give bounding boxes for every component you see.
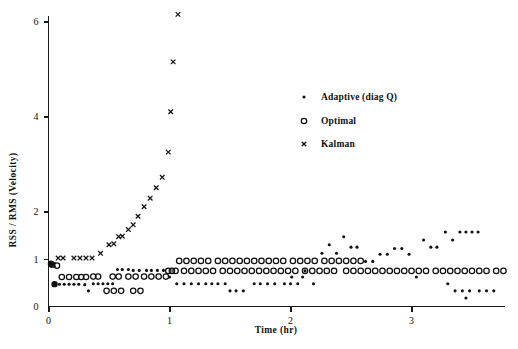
data-point-circle: [210, 268, 215, 273]
data-point-circle: [198, 258, 203, 263]
data-point-circle: [141, 274, 146, 279]
y-tick-label: 6: [34, 16, 39, 27]
y-tick-label: 1: [34, 254, 39, 265]
data-point-dot: [435, 246, 438, 249]
data-point-circle: [220, 268, 225, 273]
data-point-circle: [494, 268, 499, 273]
data-point-dot: [335, 252, 338, 255]
data-point-circle: [110, 274, 115, 279]
data-point-circle: [264, 268, 269, 273]
data-point-circle: [329, 258, 334, 263]
data-point-circle: [297, 258, 302, 263]
data-point-dot: [283, 282, 286, 285]
data-point-circle: [373, 268, 378, 273]
data-point-circle: [336, 258, 341, 263]
data-point-dot: [224, 282, 227, 285]
data-point-dot: [266, 282, 269, 285]
data-point-circle: [322, 258, 327, 263]
data-point-circle: [133, 274, 138, 279]
data-point-dot: [301, 276, 304, 279]
x-tick-label: 3: [409, 315, 414, 326]
series-optimal: [49, 258, 506, 293]
data-point-dot: [156, 269, 159, 272]
data-point-dot: [429, 246, 432, 249]
data-point-dot: [253, 282, 256, 285]
data-point-dot: [51, 281, 57, 287]
data-point-dot: [302, 95, 305, 98]
data-point-dot: [83, 283, 86, 286]
data-point-dot: [106, 282, 109, 285]
data-point-circle: [156, 274, 161, 279]
data-point-dot: [478, 289, 481, 292]
data-point-circle: [305, 258, 310, 263]
data-point-dot: [175, 282, 178, 285]
data-point-circle: [484, 268, 489, 273]
x-axis-ticks: 0123: [46, 307, 414, 326]
data-point-circle: [249, 268, 254, 273]
data-point-dot: [356, 246, 359, 249]
data-point-circle: [59, 274, 64, 279]
data-point-x: [78, 256, 83, 261]
data-point-dot: [386, 253, 389, 256]
legend-label: Kalman: [321, 139, 355, 149]
data-point-circle: [290, 258, 295, 263]
data-point-circle: [163, 274, 168, 279]
data-point-dot: [63, 283, 66, 286]
data-point-dot: [422, 238, 425, 241]
data-point-dot: [451, 238, 454, 241]
data-point-dot: [182, 282, 185, 285]
data-point-dot: [378, 253, 381, 256]
data-point-circle: [331, 268, 336, 273]
data-point-circle: [196, 268, 201, 273]
data-point-dot: [77, 283, 80, 286]
data-point-x: [176, 12, 181, 17]
data-point-dot: [342, 235, 345, 238]
data-point-dot: [58, 283, 61, 286]
data-point-circle: [138, 288, 143, 293]
data-point-dot: [454, 289, 457, 292]
data-point-circle: [317, 268, 322, 273]
data-point-dot: [72, 283, 75, 286]
data-point-circle: [273, 258, 278, 263]
data-point-circle: [111, 288, 116, 293]
data-point-circle: [206, 258, 211, 263]
data-point-circle: [448, 268, 453, 273]
data-point-circle: [118, 288, 123, 293]
data-point-circle: [293, 268, 298, 273]
data-point-dot: [328, 243, 331, 246]
legend-label: Adaptive (diag Q): [321, 92, 397, 103]
data-point-circle: [126, 274, 131, 279]
data-point-circle: [184, 258, 189, 263]
data-point-dot: [127, 268, 130, 271]
data-point-dot: [312, 282, 315, 285]
data-point-dot: [210, 282, 213, 285]
data-point-circle: [358, 268, 363, 273]
data-point-circle: [131, 288, 136, 293]
data-point-circle: [278, 268, 283, 273]
data-point-dot: [68, 283, 71, 286]
data-point-circle: [166, 268, 171, 273]
data-point-dot: [492, 289, 495, 292]
data-point-circle: [281, 258, 286, 263]
data-point-circle: [215, 258, 220, 263]
data-point-dot: [259, 282, 262, 285]
data-point-x: [90, 256, 95, 261]
y-tick-label: 0: [34, 301, 39, 312]
data-point-dot: [273, 282, 276, 285]
data-point-circle: [301, 118, 306, 123]
data-point-x: [302, 142, 307, 147]
data-point-dot: [393, 247, 396, 250]
data-point-circle: [416, 268, 421, 273]
data-point-circle: [149, 274, 154, 279]
y-tick-label: 2: [34, 206, 39, 217]
data-point-circle: [343, 258, 348, 263]
data-point-dot: [408, 253, 411, 256]
data-point-dot: [371, 260, 374, 263]
data-point-x: [107, 242, 112, 247]
data-point-dot: [464, 296, 467, 299]
x-tick-label: 1: [167, 315, 172, 326]
x-tick-label: 2: [288, 315, 293, 326]
data-point-x: [120, 234, 125, 239]
legend-item-optimal: Optimal: [301, 116, 356, 126]
data-point-x: [142, 204, 147, 209]
